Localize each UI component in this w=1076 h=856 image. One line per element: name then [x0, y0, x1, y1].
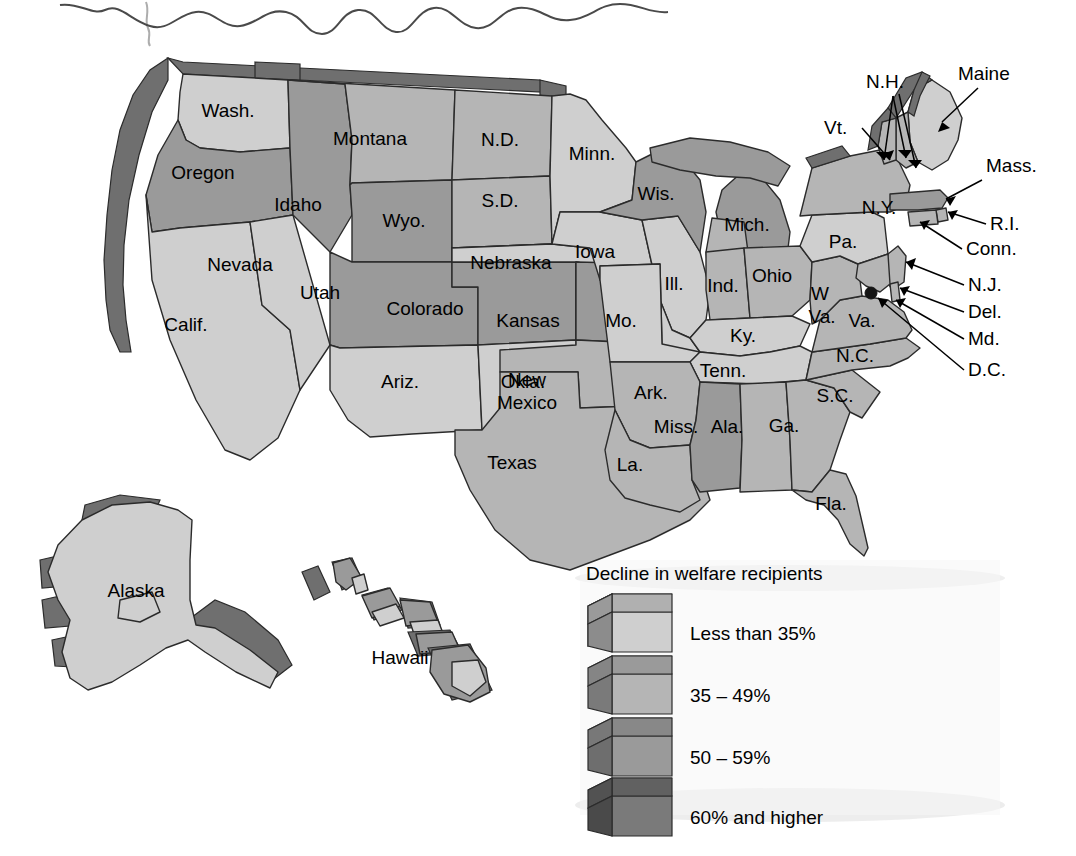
state-label-IN: Ind. — [707, 275, 739, 296]
state-label-VA: Va. — [848, 310, 875, 331]
state-DC-dot — [865, 287, 877, 299]
legend-swatch-2 — [588, 718, 672, 776]
legend-swatch-1 — [588, 656, 672, 714]
legend-label-1: 35 – 49% — [690, 685, 770, 706]
state-label-NE: Nebraska — [470, 252, 552, 273]
state-label-PA: Pa. — [829, 231, 858, 252]
map-figure: Alaska Hawaii Wash. Oregon Calif. Nevada… — [0, 0, 1076, 856]
callout-label-MD: Md. — [968, 328, 1000, 349]
callout-label-CT: Conn. — [966, 238, 1017, 259]
legend-label-0: Less than 35% — [690, 623, 816, 644]
state-label-IA: Iowa — [575, 241, 616, 262]
state-label-NM-line2: Mexico — [497, 392, 557, 413]
legend-label-2: 50 – 59% — [690, 747, 770, 768]
state-label-GA: Ga. — [769, 415, 800, 436]
callout-label-DE: Del. — [968, 301, 1002, 322]
state-label-KY: Ky. — [730, 325, 756, 346]
state-label-LA: La. — [617, 454, 643, 475]
state-label-WV-line1: W — [811, 283, 829, 304]
callout-label-NH: N.H. — [866, 71, 904, 92]
state-label-AR: Ark. — [634, 382, 668, 403]
state-label-NC: N.C. — [836, 345, 874, 366]
legend-title: Decline in welfare recipients — [586, 563, 823, 584]
callout-label-RI: R.I. — [990, 213, 1020, 234]
legend-swatch-0 — [588, 594, 672, 652]
state-label-WI: Wis. — [638, 183, 675, 204]
state-label-OH: Ohio — [752, 265, 792, 286]
state-label-WA: Wash. — [201, 100, 254, 121]
state-label-AL: Ala. — [711, 416, 744, 437]
state-label-MI: Mich. — [724, 214, 769, 235]
state-label-HI: Hawaii — [371, 647, 428, 668]
state-SD — [452, 176, 552, 248]
state-label-TX: Texas — [487, 452, 537, 473]
state-label-FL: Fla. — [815, 493, 847, 514]
state-label-MN: Minn. — [569, 143, 615, 164]
state-AL — [740, 382, 792, 492]
state-label-ID: Idaho — [274, 194, 322, 215]
callout-label-NJ: N.J. — [968, 274, 1002, 295]
callout-label-MAINE: Maine — [958, 63, 1010, 84]
state-label-NY: N.Y. — [862, 197, 897, 218]
state-label-SD: S.D. — [482, 190, 519, 211]
callout-label-DC: D.C. — [968, 359, 1006, 380]
state-label-OR: Oregon — [171, 162, 234, 183]
callout-label-MA: Mass. — [986, 155, 1037, 176]
state-label-WV-line2: Va. — [808, 306, 835, 327]
state-label-MT: Montana — [333, 128, 407, 149]
state-label-MS: Miss. — [654, 416, 698, 437]
callout-label-VT: Vt. — [824, 117, 847, 138]
state-label-OK: Okla. — [501, 371, 545, 392]
state-MA — [890, 190, 948, 210]
state-label-ND: N.D. — [481, 129, 519, 150]
state-label-TN: Tenn. — [700, 360, 746, 381]
legend-label-3: 60% and higher — [690, 807, 824, 828]
state-label-IL: Ill. — [665, 273, 684, 294]
state-label-WY: Wyo. — [382, 210, 425, 231]
legend-swatch-3 — [588, 778, 672, 836]
state-label-KS: Kansas — [496, 310, 559, 331]
state-label-CO: Colorado — [386, 298, 463, 319]
state-label-MO: Mo. — [605, 310, 637, 331]
state-label-UT: Utah — [300, 282, 340, 303]
state-label-NV: Nevada — [207, 254, 273, 275]
state-label-SC: S.C. — [817, 385, 854, 406]
state-label-AK: Alaska — [107, 580, 164, 601]
state-label-CA: Calif. — [164, 314, 207, 335]
state-DE — [890, 282, 900, 302]
state-label-AZ: Ariz. — [381, 371, 419, 392]
